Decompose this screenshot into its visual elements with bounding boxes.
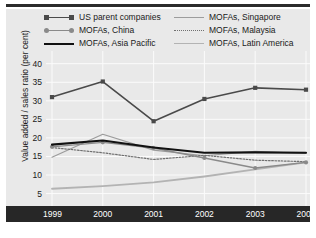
legend-item-mofas-latin-america: MOFAs, Latin America xyxy=(174,37,294,50)
legend-item-mofas-singapore: MOFAs, Singapore xyxy=(174,11,294,24)
x-tick-1999: 1999 xyxy=(43,209,62,219)
legend-item-us-parent-companies: US parent companies xyxy=(44,11,161,24)
legend-label-mofas-china: MOFAs, China xyxy=(79,25,134,36)
legend-column-right: MOFAs, Singapore MOFAs, Malaysia MOFAs, … xyxy=(174,11,294,50)
chart-svg xyxy=(46,51,310,206)
y-tick-15: 15 xyxy=(33,151,42,161)
x-tick-2003: 2003 xyxy=(246,209,265,219)
chart-figure: US parent companies MOFAs, China MOFAs, … xyxy=(0,0,316,238)
legend-item-mofas-malaysia: MOFAs, Malaysia xyxy=(174,24,294,37)
legend-swatch-us-parent-companies xyxy=(44,12,74,23)
y-tick-10: 10 xyxy=(33,170,42,180)
x-axis-band: 199920002001200220032004 xyxy=(6,206,310,222)
legend-column-left: US parent companies MOFAs, China MOFAs, … xyxy=(44,11,161,50)
legend-swatch-mofas-singapore xyxy=(174,12,204,23)
y-tick-30: 30 xyxy=(33,96,42,106)
legend-label-mofas-singapore: MOFAs, Singapore xyxy=(209,12,281,23)
y-tick-5: 5 xyxy=(37,189,42,199)
legend-swatch-mofas-asia-pacific xyxy=(44,38,74,49)
plot-area: Value added / sales ratio (per cent) 403… xyxy=(6,51,310,206)
y-tick-25: 25 xyxy=(33,114,42,124)
legend-item-mofas-china: MOFAs, China xyxy=(44,24,161,37)
x-tick-2002: 2002 xyxy=(195,209,214,219)
legend-item-mofas-asia-pacific: MOFAs, Asia Pacific xyxy=(44,37,161,50)
legend-label-mofas-malaysia: MOFAs, Malaysia xyxy=(209,25,276,36)
y-tick-20: 20 xyxy=(33,133,42,143)
legend-swatch-mofas-latin-america xyxy=(174,38,204,49)
top-divider xyxy=(6,4,310,7)
legend-label-mofas-asia-pacific: MOFAs, Asia Pacific xyxy=(79,38,156,49)
y-tick-35: 35 xyxy=(33,77,42,87)
y-tick-40: 40 xyxy=(33,59,42,69)
x-tick-2004: 2004 xyxy=(297,209,316,219)
legend-label-mofas-latin-america: MOFAs, Latin America xyxy=(209,38,294,49)
plot-canvas xyxy=(46,51,310,206)
chart-legend: US parent companies MOFAs, China MOFAs, … xyxy=(6,9,310,51)
x-tick-2001: 2001 xyxy=(144,209,163,219)
y-axis-ticks: 403530252015105 xyxy=(20,51,42,206)
legend-swatch-mofas-malaysia xyxy=(174,25,204,36)
legend-swatch-mofas-china xyxy=(44,25,74,36)
x-tick-2000: 2000 xyxy=(93,209,112,219)
legend-label-us-parent-companies: US parent companies xyxy=(79,12,161,23)
